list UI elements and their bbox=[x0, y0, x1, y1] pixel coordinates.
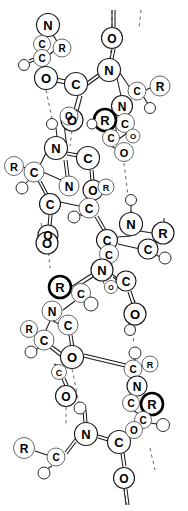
atom-label-c: C bbox=[144, 243, 153, 257]
atom-label-o: O bbox=[119, 472, 128, 486]
atom-label-c: C bbox=[38, 39, 45, 50]
atom-node-hydrogen bbox=[157, 419, 170, 432]
atom-label-n: N bbox=[51, 141, 60, 156]
atom-label-c: C bbox=[83, 151, 93, 166]
atom-node-hydrogen bbox=[145, 103, 156, 114]
atom-label-c: C bbox=[56, 368, 63, 378]
atom-node-hydrogen bbox=[125, 325, 136, 336]
atom-label-c: C bbox=[40, 334, 49, 348]
atom-label-o: O bbox=[61, 390, 70, 404]
atom-label-c: C bbox=[38, 53, 45, 64]
atom-label-n: N bbox=[104, 63, 113, 78]
atom-label-n: N bbox=[81, 427, 90, 442]
molecule-canvas: NCCROCOONCRNCRCOOONCRCNOCORCNCRCOCNCORCO… bbox=[0, 0, 188, 511]
atom-node-hydrogen bbox=[19, 60, 30, 71]
atom-label-r: R bbox=[55, 280, 65, 295]
atom-label-r: R bbox=[58, 43, 66, 54]
atom-label-o: O bbox=[41, 71, 51, 86]
atom-label-c: C bbox=[71, 77, 81, 92]
atom-label-o: O bbox=[107, 32, 116, 46]
atom-label-o: O bbox=[67, 350, 77, 365]
atom-label-r: R bbox=[20, 442, 29, 456]
atom-label-c: C bbox=[52, 452, 59, 463]
atom-label-r: R bbox=[147, 360, 154, 370]
atom-node-hydrogen bbox=[74, 402, 86, 414]
atom-label-c: C bbox=[77, 288, 85, 300]
atom-label-c: C bbox=[127, 398, 134, 409]
atom-label-n: N bbox=[48, 305, 57, 319]
atom-node-hydrogen bbox=[159, 252, 171, 264]
atom-label-c: C bbox=[114, 435, 124, 450]
atom-label-c: C bbox=[46, 198, 55, 212]
atom-label-r: R bbox=[100, 113, 110, 128]
atom-label-o: O bbox=[65, 111, 73, 122]
atom-label-n: N bbox=[97, 263, 106, 278]
atom-label-c: C bbox=[133, 86, 140, 97]
atom-label-n: N bbox=[118, 100, 127, 114]
atom-node-hydrogen bbox=[47, 119, 58, 130]
atom-node-hydrogen bbox=[126, 195, 137, 206]
atom-label-c: C bbox=[121, 118, 129, 130]
atom-label-n: N bbox=[65, 180, 74, 194]
atom-label-n: N bbox=[133, 380, 142, 394]
atom-node-hydrogen bbox=[16, 182, 28, 194]
atom-label-c: C bbox=[139, 415, 146, 426]
atom-node-hydrogen bbox=[129, 347, 141, 359]
atom-label-o: O bbox=[88, 184, 97, 198]
atom-label-r: R bbox=[25, 324, 33, 335]
atom-label-n: N bbox=[126, 217, 135, 232]
atom-label-c: C bbox=[64, 319, 73, 333]
atom-label-r: R bbox=[147, 397, 157, 412]
atom-label-c: C bbox=[105, 249, 113, 261]
atom-label-o: O bbox=[130, 132, 136, 141]
atom-label-c: C bbox=[103, 234, 112, 248]
atom-node-hydrogen bbox=[38, 467, 50, 479]
atom-node-hydrogen bbox=[68, 211, 80, 223]
atom-label-r: R bbox=[156, 80, 165, 94]
atom-label-c: C bbox=[107, 133, 114, 144]
atom-label-c: C bbox=[85, 202, 94, 216]
atom-label-r: R bbox=[10, 161, 18, 173]
atom-label-o: O bbox=[130, 307, 140, 322]
atom-node-hydrogen bbox=[84, 297, 98, 311]
atom-label-r: R bbox=[103, 183, 110, 193]
atom-label-r: R bbox=[158, 226, 168, 241]
atom-node-hydrogen bbox=[25, 346, 37, 358]
atom-label-n: N bbox=[43, 18, 52, 33]
atom-label-c: C bbox=[129, 364, 136, 375]
atom-node-hydrogen bbox=[87, 119, 97, 129]
atom-label-o: O bbox=[130, 425, 138, 436]
molecular-structure-figure: NCCROCOONCRNCRCOOONCRCNOCORCNCRCOCNCORCO… bbox=[0, 0, 188, 511]
atom-label-o: O bbox=[108, 284, 114, 291]
atom-label-o: O bbox=[42, 236, 52, 251]
atom-label-c: C bbox=[122, 275, 131, 289]
atom-label-o: O bbox=[120, 147, 129, 159]
atom-label-c: C bbox=[30, 166, 39, 180]
